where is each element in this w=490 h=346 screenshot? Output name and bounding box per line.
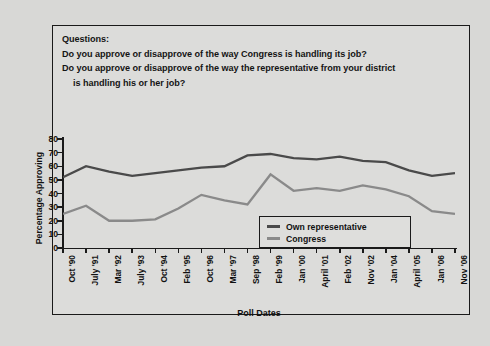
x-tick-label-0: Oct '90 <box>67 255 77 283</box>
y-tick-mark-50 <box>57 179 62 181</box>
legend-item-congress: Congress <box>267 233 410 245</box>
legend-swatch-congress <box>267 237 280 240</box>
legend: Own representative Congress <box>259 216 411 248</box>
question-1: Do you approve or disapprove of the way … <box>62 47 462 62</box>
y-tick-mark-30 <box>57 206 62 208</box>
legend-label-own-representative: Own representative <box>286 222 367 232</box>
legend-label-congress: Congress <box>286 234 326 244</box>
y-tick-mark-70 <box>57 152 62 154</box>
x-axis-title: Poll Dates <box>63 308 455 318</box>
x-tick-label-5: Feb '95 <box>182 255 192 284</box>
questions-block: Questions: Do you approve or disapprove … <box>62 32 462 91</box>
x-tick-label-8: Sep '98 <box>251 255 261 284</box>
x-tick-label-9: Feb '99 <box>274 255 284 284</box>
x-tick-label-11: April '01 <box>320 255 330 288</box>
x-tick-label-14: Jan '04 <box>389 255 399 283</box>
y-tick-mark-40 <box>57 193 62 195</box>
legend-swatch-own-representative <box>267 225 280 228</box>
x-tick-label-15: April '05 <box>412 255 422 288</box>
figure: Questions: Do you approve or disapprove … <box>0 0 490 346</box>
x-tick-label-6: Oct '96 <box>205 255 215 283</box>
questions-heading: Questions: <box>62 32 462 47</box>
y-tick-mark-80 <box>57 138 62 140</box>
legend-item-own-representative: Own representative <box>267 221 410 233</box>
x-tick-label-4: Oct '94 <box>159 255 169 283</box>
x-tick-label-10: Jan '00 <box>297 255 307 283</box>
y-tick-mark-0 <box>57 247 62 249</box>
y-tick-mark-10 <box>57 234 62 236</box>
x-tick-label-12: Feb '02 <box>343 255 353 284</box>
x-tick-label-2: Mar '92 <box>113 255 123 284</box>
x-tick-label-7: Mar '97 <box>228 255 238 284</box>
y-tick-mark-20 <box>57 220 62 222</box>
series-line-congress <box>63 174 455 220</box>
x-tick-label-16: Jan '06 <box>436 255 446 283</box>
y-tick-mark-60 <box>57 166 62 168</box>
x-tick-label-3: July '93 <box>136 255 146 285</box>
series-line-own-representative <box>63 154 455 177</box>
x-tick-label-1: July '91 <box>90 255 100 285</box>
y-axis-title: Percentage Approving <box>34 123 44 273</box>
x-tick-label-13: Nov '02 <box>366 255 376 284</box>
x-tick-label-17: Nov '06 <box>459 255 469 284</box>
question-2: Do you approve or disapprove of the way … <box>62 61 462 76</box>
question-2-continued: is handling his or her job? <box>62 76 462 91</box>
